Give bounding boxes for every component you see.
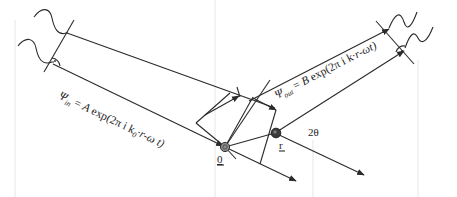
scatterer-origin bbox=[220, 142, 229, 151]
scattered-wave-upper-icon bbox=[389, 12, 417, 28]
scattering-diagram: Ψin = A exp(2π i k0·r-ω t) Ψout = B exp(… bbox=[0, 0, 457, 197]
incident-ray-upper bbox=[67, 33, 275, 108]
incident-wave-upper-icon bbox=[34, 10, 68, 34]
incident-wave-lower-icon bbox=[18, 39, 54, 63]
scattered-wavefront bbox=[376, 12, 433, 64]
scattered-wave-equation: Ψout = B exp(2π i k·r-ωt) bbox=[272, 39, 379, 104]
scatterer-position-r bbox=[271, 128, 281, 138]
path-difference-construction bbox=[196, 80, 276, 164]
scattered-wave-lower-icon bbox=[405, 27, 433, 48]
scattered-rays bbox=[249, 29, 404, 133]
incident-rays bbox=[53, 33, 275, 146]
scattering-angle-label: 2θ bbox=[308, 126, 319, 138]
scattered-ray-upper bbox=[249, 29, 389, 101]
origin-label: 0 bbox=[217, 153, 223, 165]
incident-wavefront bbox=[18, 10, 74, 72]
transmitted-rays bbox=[225, 133, 364, 181]
incident-wave-equation: Ψin = A exp(2π i k0·r-ω t) bbox=[56, 89, 167, 152]
position-r-label: r bbox=[279, 139, 283, 151]
